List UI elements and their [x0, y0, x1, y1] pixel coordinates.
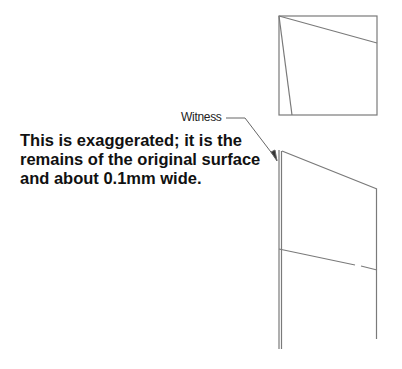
detail-steep-edge: [279, 16, 292, 115]
top-slanted-edge: [282, 151, 377, 189]
detail-diagonal-edge: [279, 16, 377, 43]
witness-label: Witness: [181, 110, 222, 124]
note-line-3: and about 0.1mm wide.: [20, 169, 280, 188]
detail-box: [279, 16, 377, 115]
break-line-left: [279, 249, 355, 265]
explanatory-note: This is exaggerated; it is the remains o…: [20, 131, 280, 188]
note-line-1: This is exaggerated; it is the: [20, 131, 280, 150]
top-detail-view: [279, 16, 377, 115]
note-line-2: remains of the original surface: [20, 150, 280, 169]
section-view: [279, 150, 377, 349]
break-line-right: [361, 266, 377, 270]
